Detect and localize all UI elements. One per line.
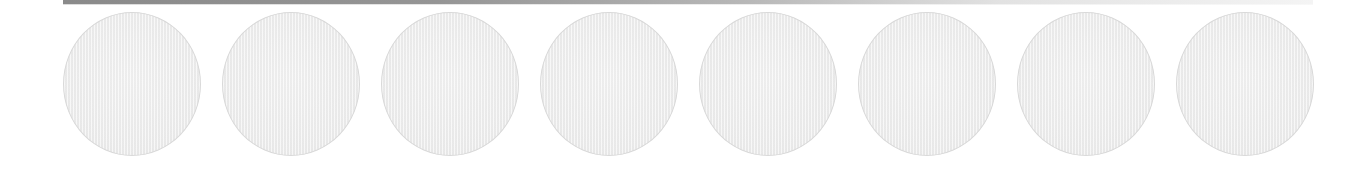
slot-circle-4[interactable] (540, 12, 678, 156)
slot-circle-5[interactable] (699, 12, 837, 156)
slot-circle-1[interactable] (63, 12, 201, 156)
top-divider-bar (63, 0, 1313, 4)
slot-row (63, 12, 1314, 157)
slot-circle-6[interactable] (858, 12, 996, 156)
slot-circle-7[interactable] (1017, 12, 1155, 156)
slot-circle-3[interactable] (381, 12, 519, 156)
slot-circle-2[interactable] (222, 12, 360, 156)
slot-circle-8[interactable] (1176, 12, 1314, 156)
